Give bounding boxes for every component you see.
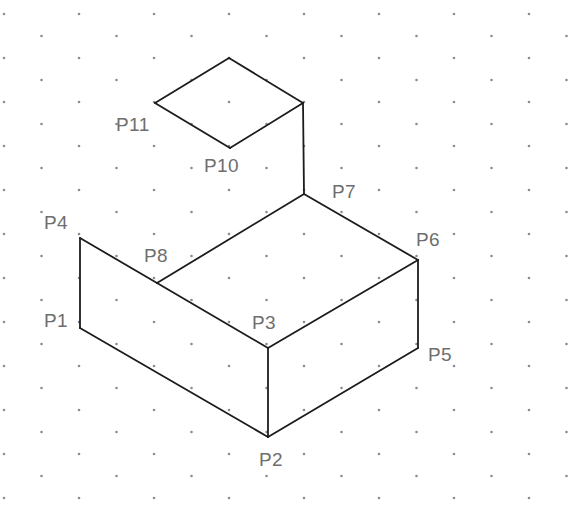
vertex-label-p6: P6 (416, 230, 440, 249)
edge-p5-p2 (268, 348, 418, 437)
edge-pb-p10 (230, 103, 303, 148)
vertex-label-p3: P3 (252, 313, 276, 332)
edge-pb-p7 (303, 103, 304, 194)
vertex-label-p2: P2 (259, 450, 283, 469)
drawing-canvas: P1P2P3P4P5P6P7P8P10P11 (0, 0, 568, 518)
edge-p10-p11 (155, 103, 230, 148)
edge-p7-p8 (157, 194, 304, 283)
edge-p3-p6 (268, 260, 418, 348)
edge-p11-apex (155, 58, 229, 103)
vertex-label-p7: P7 (332, 182, 356, 201)
edge-apex-pb (229, 58, 303, 103)
edge-p1-p2 (80, 328, 268, 437)
vertex-label-p1: P1 (44, 311, 68, 330)
isometric-figure (0, 0, 568, 518)
vertex-label-p8: P8 (144, 246, 168, 265)
edge-p7-p6 (304, 194, 418, 260)
vertex-label-p11: P11 (116, 115, 150, 134)
vertex-label-p10: P10 (204, 156, 239, 175)
vertex-label-p4: P4 (44, 213, 68, 232)
vertex-label-p5: P5 (428, 345, 452, 364)
